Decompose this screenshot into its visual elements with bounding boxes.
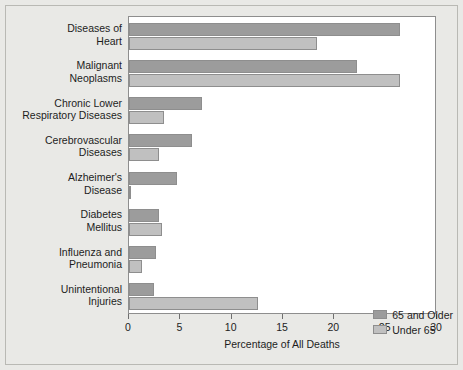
category-axis-labels: Diseases of HeartMalignant NeoplasmsChro… (8, 16, 122, 314)
bar-group (129, 246, 435, 274)
chart-figure: Diseases of HeartMalignant NeoplasmsChro… (0, 0, 463, 370)
bar-under[interactable] (129, 260, 142, 273)
x-tick-mark (333, 314, 334, 319)
category-label: Diabetes Mellitus (8, 208, 122, 233)
x-tick-mark (282, 314, 283, 319)
legend-label-older: 65 and Older (392, 309, 453, 321)
bar-group (129, 97, 435, 125)
x-tick-label: 0 (113, 321, 143, 333)
x-tick-mark (179, 314, 180, 319)
category-label: Cerebrovascular Diseases (8, 134, 122, 159)
bar-under[interactable] (129, 223, 162, 236)
bar-under[interactable] (129, 111, 164, 124)
legend-label-under: Under 65 (392, 324, 435, 336)
bar-older[interactable] (129, 134, 192, 147)
bar-older[interactable] (129, 283, 154, 296)
bar-under[interactable] (129, 74, 400, 87)
bar-older[interactable] (129, 209, 159, 222)
category-label: Unintentional Injuries (8, 283, 122, 308)
bar-older[interactable] (129, 60, 357, 73)
legend-item-older[interactable]: 65 and Older (373, 308, 453, 321)
bar-group (129, 60, 435, 88)
category-label: Influenza and Pneumonia (8, 246, 122, 271)
bar-under[interactable] (129, 148, 159, 161)
x-tick-label: 10 (216, 321, 246, 333)
bar-older[interactable] (129, 97, 202, 110)
bar-older[interactable] (129, 246, 156, 259)
category-label: Malignant Neoplasms (8, 59, 122, 84)
bar-group (129, 23, 435, 51)
x-tick-mark (128, 314, 129, 319)
bar-under[interactable] (129, 37, 317, 50)
chart-legend: 65 and Older Under 65 (371, 306, 457, 340)
legend-swatch-icon-older (373, 310, 387, 319)
bar-group (129, 134, 435, 162)
category-label: Alzheimer's Disease (8, 171, 122, 196)
bars-layer (129, 17, 435, 313)
category-label: Diseases of Heart (8, 22, 122, 47)
category-label: Chronic Lower Respiratory Diseases (8, 97, 122, 122)
bar-group (129, 209, 435, 237)
legend-item-under[interactable]: Under 65 (373, 323, 453, 336)
bar-group (129, 172, 435, 200)
x-tick-label: 20 (318, 321, 348, 333)
bar-older[interactable] (129, 172, 177, 185)
x-tick-label: 5 (164, 321, 194, 333)
plot-area (128, 16, 436, 314)
bar-under[interactable] (129, 297, 258, 310)
x-tick-mark (231, 314, 232, 319)
x-tick-label: 15 (267, 321, 297, 333)
bar-older[interactable] (129, 23, 400, 36)
bar-under[interactable] (129, 186, 131, 199)
legend-swatch-icon-under (373, 325, 387, 334)
